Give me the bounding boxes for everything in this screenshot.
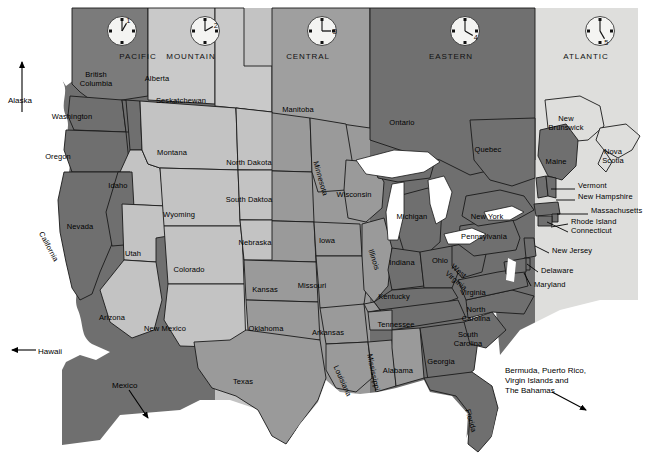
svg-text:5: 5 — [604, 38, 608, 47]
state-label-wisconsin: Wisconsin — [331, 190, 377, 199]
province-label-ontario: Ontario — [382, 118, 422, 127]
state-connecticut — [538, 216, 552, 226]
clock-face-mountain: 2 — [188, 14, 222, 48]
state-label-alabama: Alabama — [377, 366, 419, 375]
clock-mountain: 2 — [188, 14, 222, 52]
svg-text:1: 1 — [126, 16, 130, 25]
state-alabama — [392, 328, 424, 386]
timezone-label-mountain: MOUNTAIN — [146, 52, 236, 61]
state-label-michigan: Michigan — [390, 212, 434, 221]
clock-eastern: 4 — [448, 14, 482, 52]
state-label-south-daktoa: South Daktoa — [221, 195, 277, 204]
state-label-iowa: Iowa — [314, 236, 340, 245]
state-label-indiana: Indiana — [383, 258, 421, 267]
timezone-label-atlantic: ATLANTIC — [541, 52, 631, 61]
state-label-maine: Maine — [541, 157, 571, 166]
timezone-label-central: CENTRAL — [263, 52, 353, 61]
state-label-new-mexico: New Mexico — [137, 324, 193, 333]
state-rhode-island — [552, 214, 558, 222]
state-label-idaho: Idaho — [103, 181, 133, 190]
state-label-utah: Utah — [120, 249, 146, 258]
clock-face-atlantic: 5 — [583, 14, 617, 48]
state-label-texas: Texas — [227, 377, 259, 386]
state-label-tennessee: Tennessee — [371, 320, 421, 329]
state-label-north-dakota: North Dakota — [221, 158, 277, 167]
state-label-ohio: Ohio — [427, 256, 453, 265]
callout-massachusetts: Massachusetts — [591, 206, 642, 215]
state-oregon — [64, 130, 130, 172]
callout-vermont: Vermont — [578, 181, 607, 190]
callout-rhode-island: Rhode Island — [571, 217, 616, 226]
state-label-kansas: Kansas — [246, 285, 284, 294]
clock-atlantic: 5 — [583, 14, 617, 52]
clock-face-pacific: 1 — [105, 14, 139, 48]
state-label-missouri: Missouri — [291, 281, 333, 290]
state-colorado — [164, 226, 244, 284]
state-label-new-york: New York — [465, 212, 509, 221]
state-label-oklahoma: Oklahoma — [243, 324, 289, 333]
clock-central: 3 — [305, 14, 339, 52]
state-new-jersey — [524, 238, 536, 258]
state-label-nevada: Nevada — [60, 222, 100, 231]
callout-new-jersey: New Jersey — [552, 246, 592, 255]
province-label-alberta: Alberta — [137, 74, 177, 83]
state-label-north-carolina: North Carolina — [456, 305, 496, 323]
state-label-montana: Montana — [150, 148, 194, 157]
state-label-nebraska: Nebraska — [231, 238, 279, 247]
svg-text:2: 2 — [214, 21, 218, 30]
clock-face-eastern: 4 — [448, 14, 482, 48]
state-label-pennsylvania: Pennsylvania — [457, 232, 511, 241]
arrow-label-islands: Bermuda, Puerto Rico, Virgin Islands and… — [505, 366, 586, 396]
arrow-label-alaska: Alaska — [8, 96, 32, 106]
state-label-south-carolina: South Carolina — [448, 330, 488, 348]
callout-maryland: Maryland — [534, 280, 566, 289]
province-label-nova-scotia: Nova Scotia — [596, 147, 630, 165]
timezone-label-eastern: EASTERN — [406, 52, 496, 61]
province-label-british-columbia: British Columbia — [73, 70, 119, 88]
state-label-oregon: Oregon — [35, 152, 81, 161]
state-label-kentucky: Kentucky — [372, 292, 416, 301]
callout-new-hampshire: New Hampshire — [578, 192, 633, 201]
state-indiana — [388, 248, 424, 290]
province-label-new-brunswick: New Brunswick — [542, 114, 590, 132]
svg-text:3: 3 — [332, 27, 336, 36]
state-label-arkansas: Arkansas — [306, 328, 350, 337]
clock-pacific: 1 — [105, 14, 139, 52]
arrow-label-mexico: Mexico — [112, 381, 137, 391]
state-label-washington: Washington — [43, 112, 101, 121]
province-label-quebec: Quebec — [468, 145, 508, 154]
arrow-label-hawaii: Hawaii — [38, 347, 62, 357]
state-label-georgia: Georgia — [422, 357, 460, 366]
state-new-hampshire — [546, 176, 556, 198]
province-label-manitoba: Manitoba — [275, 105, 321, 114]
clock-face-central: 3 — [305, 14, 339, 48]
state-arkansas — [320, 304, 368, 344]
state-label-arizona: Arizona — [92, 313, 132, 322]
time-zone-map: 1PACIFIC2MOUNTAIN3CENTRAL4EASTERN5ATLANT… — [0, 0, 648, 469]
svg-text:4: 4 — [474, 33, 478, 42]
state-label-colorado: Colorado — [167, 265, 211, 274]
province-label-seskatchewan: Seskatchewan — [150, 96, 212, 105]
callout-delaware: Delaware — [541, 266, 573, 275]
state-label-wyoming: Wyoming — [156, 210, 202, 219]
callout-connecticut: Connecticut — [571, 226, 612, 235]
